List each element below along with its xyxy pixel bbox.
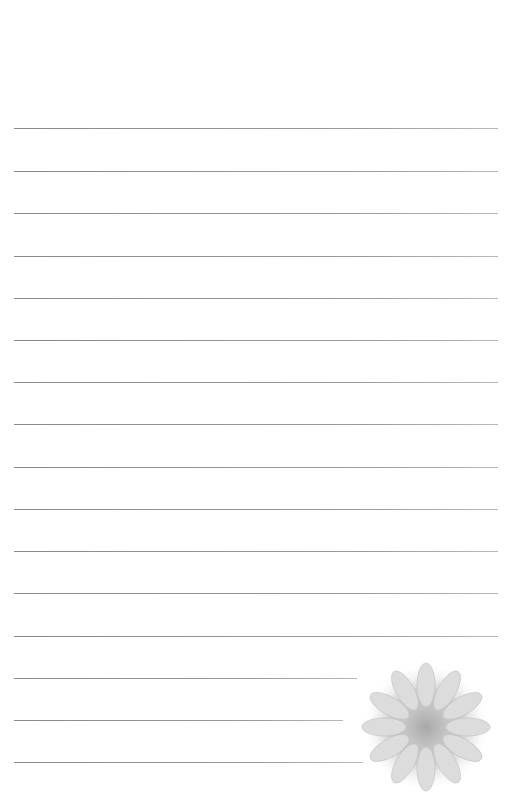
writing-line [14,424,498,425]
flower-icon [358,655,498,795]
writing-line [14,298,498,299]
writing-line [14,720,343,721]
writing-line [14,256,498,257]
writing-line [14,382,498,383]
writing-line [14,213,498,214]
writing-line [14,551,498,552]
writing-line [14,467,498,468]
writing-line [14,678,357,679]
writing-line [14,762,363,763]
writing-line [14,340,498,341]
writing-line [14,636,498,637]
writing-line [14,128,498,129]
writing-line [14,171,498,172]
writing-line [14,509,498,510]
writing-line [14,593,498,594]
